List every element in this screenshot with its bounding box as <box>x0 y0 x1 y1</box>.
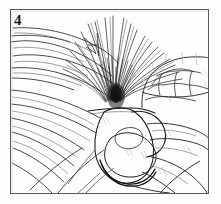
line-art-canvas <box>0 0 221 204</box>
step-illustration-figure: 4 <box>0 0 221 204</box>
knot-core-dark <box>111 85 122 103</box>
step-number-label: 4 <box>14 13 22 28</box>
